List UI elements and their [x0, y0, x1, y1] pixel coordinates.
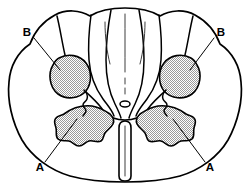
label-b-right: B — [217, 26, 225, 38]
cross-section-diagram: B B A A — [0, 0, 250, 186]
central-canal-group — [120, 101, 130, 107]
central-canal-oval — [120, 101, 130, 107]
figure-root: B B A A — [0, 0, 250, 186]
label-b-left: B — [23, 26, 31, 38]
label-a-right: A — [206, 161, 214, 173]
label-a-left: A — [36, 161, 44, 173]
median-fissure-group — [119, 121, 131, 181]
